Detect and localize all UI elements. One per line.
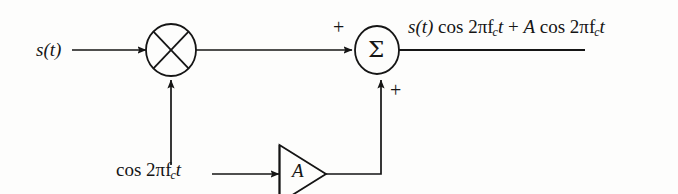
amplifier-gain-label: A (292, 161, 304, 180)
block-diagram: s(t) cos 2πfct A + + s(t) cos 2πfct + A … (0, 0, 678, 194)
summer-plus-bottom-label: + (390, 80, 401, 100)
summer-plus-top-label: + (333, 17, 344, 37)
carrier-signal-label: cos 2πfct (116, 160, 181, 181)
output-expression-label: s(t) cos 2πfct + A cos 2πfct (408, 17, 605, 38)
wire-amplifier-to-summer (326, 80, 381, 174)
input-signal-label: s(t) (36, 40, 61, 59)
summer-sigma-symbol: Σ (368, 38, 384, 61)
